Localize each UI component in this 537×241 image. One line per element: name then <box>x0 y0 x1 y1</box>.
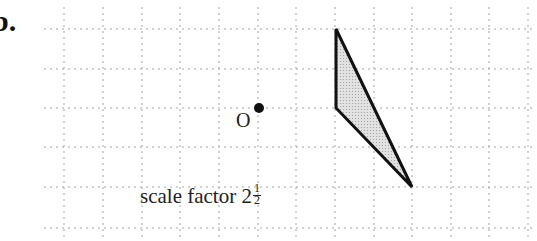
center-of-enlargement-point <box>254 103 264 113</box>
fraction-denominator: 2 <box>254 193 260 208</box>
center-label: O <box>236 109 250 132</box>
scale-factor-caption: scale factor 212 <box>140 184 262 209</box>
grid-diagram <box>0 0 537 241</box>
dotted-grid <box>44 7 532 237</box>
scale-factor-text: scale factor 2 <box>140 184 252 208</box>
fraction: 12 <box>252 184 262 204</box>
